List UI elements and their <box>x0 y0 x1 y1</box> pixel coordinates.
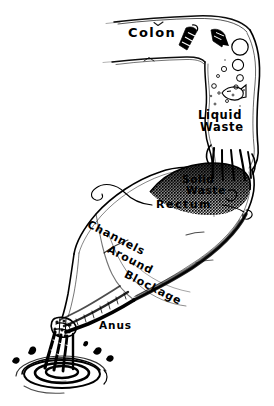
anatomy-illustration: Colon Liquid Waste Solid Waste Rectum Ch… <box>0 0 274 406</box>
water-ripples <box>16 356 107 393</box>
liquid-waste-bubbles <box>210 39 248 115</box>
waste-particle <box>222 85 246 100</box>
label-solid-waste: Solid Waste <box>182 174 226 195</box>
label-anus: Anus <box>99 320 132 331</box>
label-solid-waste-line2: Waste <box>186 185 226 196</box>
flow-arrows <box>179 25 229 50</box>
arrow-icon-right <box>211 29 229 47</box>
label-liquid-waste-line2: Waste <box>200 122 244 134</box>
illustration-canvas <box>0 0 274 406</box>
label-rectum: Rectum <box>156 199 212 210</box>
label-colon: Colon <box>128 26 176 39</box>
label-liquid-waste: Liquid Waste <box>198 110 244 133</box>
arrow-icon-left <box>179 25 198 50</box>
